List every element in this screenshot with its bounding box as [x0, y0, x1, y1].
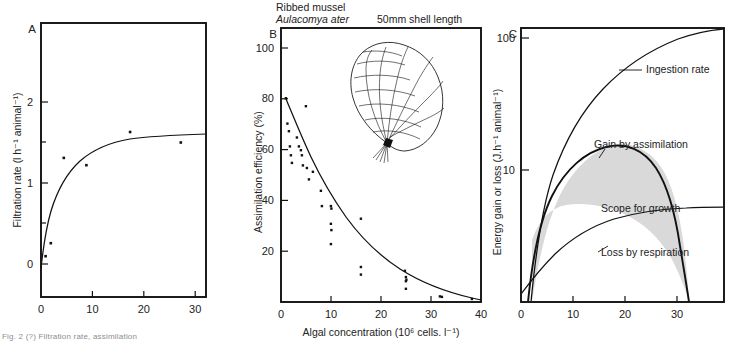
panel-b-ytick-80: 80 — [262, 92, 274, 104]
panel-a-label: A — [28, 23, 36, 35]
panel-b-ytick-20: 20 — [262, 245, 274, 257]
scope-for-growth-label: Scope for growth — [601, 202, 681, 214]
panel-b-xtick-20: 20 — [375, 308, 387, 320]
panel-c-y-axis-label: Energy gain or loss (J.h⁻¹ animal⁻¹) — [491, 89, 503, 256]
panel-c-ytick-10: 10 — [503, 164, 515, 176]
panel-b-frame — [281, 28, 481, 302]
panel-b-ytick-100: 100 — [256, 42, 274, 54]
mussel-illustration — [351, 42, 444, 163]
gain-by-assimilation-label-visible: Gain by assimilation — [594, 138, 688, 150]
panel-a-ytick-2: 2 — [27, 96, 33, 108]
figure-caption: Fig. 2 (?) Filtration rate, assimilation — [2, 332, 137, 341]
panel-a-ytick-0: 0 — [27, 258, 33, 270]
panel-c-y-ticks — [521, 38, 529, 170]
panel-b-header-line1: Ribbed mussel — [276, 1, 345, 13]
panel-a-ytick-1: 1 — [27, 177, 33, 189]
panel-c-xtick-30: 30 — [671, 308, 683, 320]
panel-c-xtick-10: 10 — [567, 308, 579, 320]
panel-c-xtick-20: 20 — [619, 308, 631, 320]
loss-by-respiration-label: Loss by respiration — [601, 246, 689, 258]
panel-b-header-species: Aulacomya ater — [275, 13, 349, 25]
panel-c: 100 10 0 10 20 30 C Energy gain or loss … — [491, 28, 724, 320]
panel-b-label: B — [269, 28, 277, 40]
panel-b-xtick-30: 30 — [425, 308, 437, 320]
panel-b-xtick-0: 0 — [278, 308, 284, 320]
panel-b-y-axis-label: Assimilation efficiency (%) — [252, 111, 264, 233]
panel-b-y-ticks — [281, 48, 288, 251]
panel-b-x-axis-label: Algal concentration (10⁶ cells. l⁻¹) — [303, 326, 460, 338]
panel-a-xtick-0: 0 — [38, 303, 44, 315]
panel-c-xtick-0: 0 — [518, 308, 524, 320]
panel-b-xtick-40: 40 — [475, 308, 487, 320]
panel-b-header-shell-length: 50mm shell length — [377, 13, 462, 25]
figure-container: 0 1 2 0 10 20 30 A Filtration rate (l h⁻… — [0, 0, 736, 344]
figure-svg: 0 1 2 0 10 20 30 A Filtration rate (l h⁻… — [0, 0, 736, 344]
panel-a-frame — [41, 23, 206, 297]
panel-a-xtick-30: 30 — [189, 303, 201, 315]
panel-b-xtick-10: 10 — [325, 308, 337, 320]
panel-a-data-points — [44, 131, 182, 258]
panel-a: 0 1 2 0 10 20 30 A Filtration rate (l h⁻… — [11, 23, 206, 315]
panel-a-xtick-20: 20 — [138, 303, 150, 315]
ingestion-rate-label: Ingestion rate — [646, 63, 710, 75]
panel-a-y-axis-label: Filtration rate (l h⁻¹ animal⁻¹) — [11, 92, 23, 227]
panel-a-fit-curve — [41, 134, 206, 268]
panel-b: Ribbed mussel Aulacomya ater 50mm shell … — [252, 1, 487, 338]
panel-c-label: C — [509, 28, 517, 40]
panel-a-xtick-10: 10 — [86, 303, 98, 315]
